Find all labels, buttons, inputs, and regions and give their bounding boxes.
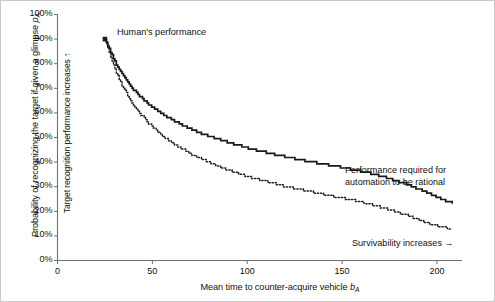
x-tick-label: 50	[132, 266, 172, 276]
series-line-lower-bound	[105, 40, 452, 229]
y-tick-label: 90%	[19, 33, 53, 43]
y-tick-label: 10%	[19, 229, 53, 239]
y-tick-label: 100%	[19, 8, 53, 18]
annotation-performance-required-line2: automation to be rational	[345, 177, 446, 189]
y-tick-label: 50%	[19, 131, 53, 141]
y-tick-label: 80%	[19, 57, 53, 67]
y-tick-label: 60%	[19, 106, 53, 116]
x-tick-label: 150	[322, 266, 362, 276]
y-tick-label: 70%	[19, 82, 53, 92]
annotation-performance-required: Performance required for automation to b…	[345, 165, 446, 188]
y-tick-label: 0%	[19, 254, 53, 264]
annotation-survivability: Survivability increases →	[352, 238, 454, 250]
x-tick-label: 100	[227, 266, 267, 276]
y-tick-label: 20%	[19, 205, 53, 215]
y-tick-label: 40%	[19, 156, 53, 166]
marker-group	[103, 37, 108, 42]
annotation-human-performance: Human's performance	[117, 27, 206, 39]
x-tick-label: 200	[417, 266, 457, 276]
chart-figure: Probability of recognizing the target if…	[0, 0, 495, 302]
series-group	[105, 40, 452, 229]
annotation-performance-required-line1: Performance required for	[345, 165, 446, 177]
axes-group	[54, 15, 462, 265]
y-tick-label: 30%	[19, 180, 53, 190]
plot-area	[0, 0, 495, 302]
human-performance-marker	[103, 37, 108, 42]
x-tick-label: 0	[38, 266, 78, 276]
